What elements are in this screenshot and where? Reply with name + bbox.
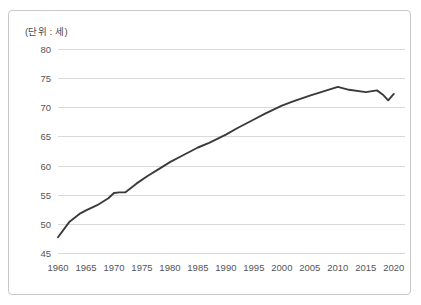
y-axis-tick-label: 45 xyxy=(40,248,51,259)
x-axis-tick-label: 1970 xyxy=(103,262,124,273)
x-axis-tick-label: 2000 xyxy=(271,262,292,273)
x-axis-tick-label: 1965 xyxy=(75,262,96,273)
x-axis-tick-label: 1980 xyxy=(159,262,180,273)
x-axis-tick-label: 1995 xyxy=(243,262,264,273)
x-axis-tick-label: 2020 xyxy=(383,262,404,273)
x-axis-tick-label: 1975 xyxy=(131,262,152,273)
line-series-life-expectancy xyxy=(58,49,405,253)
x-axis-tick-label: 2010 xyxy=(327,262,348,273)
x-axis-tick-label: 1960 xyxy=(47,262,68,273)
x-axis-tick-label: 2015 xyxy=(355,262,376,273)
x-axis-tick-label: 1990 xyxy=(215,262,236,273)
unit-label: (단위 : 세) xyxy=(25,24,68,38)
y-axis-tick-label: 70 xyxy=(40,102,51,113)
chart-frame: (단위 : 세) 4550556065707580 19601965197019… xyxy=(8,10,411,295)
y-axis-tick-label: 60 xyxy=(40,160,51,171)
gridline xyxy=(58,253,405,254)
x-axis-tick-label: 1985 xyxy=(187,262,208,273)
y-axis-tick-label: 50 xyxy=(40,218,51,229)
y-axis-tick-label: 80 xyxy=(40,44,51,55)
y-axis-tick-label: 65 xyxy=(40,131,51,142)
y-axis-tick-label: 55 xyxy=(40,189,51,200)
y-axis-tick-label: 75 xyxy=(40,73,51,84)
series-polyline xyxy=(58,87,394,237)
x-axis-tick-label: 2005 xyxy=(299,262,320,273)
plot-area: 4550556065707580 19601965197019751980198… xyxy=(58,49,405,253)
